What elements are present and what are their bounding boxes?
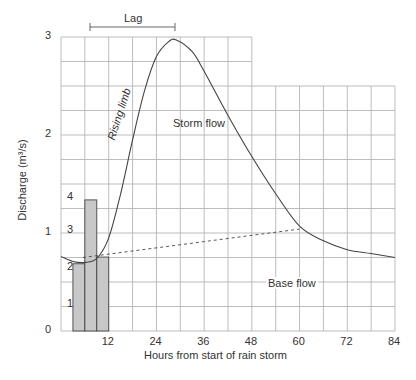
x-tick-label: 48 <box>245 335 257 347</box>
x-tick-label: 12 <box>102 335 114 347</box>
x-tick-label: 60 <box>293 335 305 347</box>
x-tick-label: 72 <box>340 335 352 347</box>
grid <box>61 37 395 331</box>
y-tick-label: 2 <box>45 127 51 139</box>
rainfall-bars <box>73 200 109 331</box>
storm-flow-label: Storm flow <box>173 117 225 129</box>
rainfall-tick-label: 1 <box>67 297 73 309</box>
y-tick-label: 3 <box>45 29 51 41</box>
lag-bracket <box>90 23 175 31</box>
x-tick-label: 24 <box>149 335 161 347</box>
lag-label: Lag <box>124 12 142 24</box>
rainfall-tick-label: 4 <box>67 190 73 202</box>
rainfall-tick-label: 2 <box>67 260 73 272</box>
hydrograph-chart <box>0 0 416 380</box>
x-axis-label: Hours from start of rain storm <box>144 349 287 361</box>
base-flow-label: Base flow <box>266 277 318 289</box>
x-tick-label: 36 <box>197 335 209 347</box>
y-tick-label: 1 <box>45 225 51 237</box>
x-tick-label: 84 <box>388 335 400 347</box>
rainfall-tick-label: 3 <box>67 223 73 235</box>
y-axis-label: Discharge (m³/s) <box>16 135 28 225</box>
y-tick-label: 0 <box>45 323 51 335</box>
